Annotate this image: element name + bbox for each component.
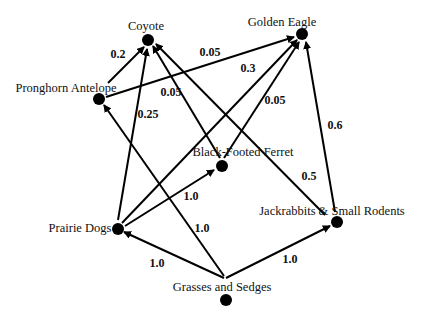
weight-grasses-prairiedogs: 1.0: [150, 256, 165, 271]
label-pronghorn: Pronghorn Antelope: [15, 81, 116, 96]
food-web-diagram: Coyote Golden Eagle Pronghorn Antelope B…: [0, 0, 421, 318]
label-grasses: Grasses and Sedges: [173, 280, 272, 295]
weight-pronghorn-eagle: 0.05: [200, 45, 221, 60]
node-golden-eagle[interactable]: [296, 28, 308, 40]
label-jackrabbits: Jackrabbits & Small Rodents: [259, 204, 404, 219]
weight-grasses-pronghorn: 1.0: [195, 221, 210, 236]
label-golden-eagle: Golden Eagle: [248, 15, 316, 30]
edge-grasses-jackrabbits: [226, 226, 330, 278]
weight-grasses-jackrabbits: 1.0: [283, 252, 298, 267]
label-ferret: Black-Footed Ferret: [192, 145, 293, 160]
weight-ferret-coyote: 0.05: [161, 85, 182, 100]
node-ferret[interactable]: [216, 160, 228, 172]
weight-prairiedogs-ferret: 1.0: [184, 189, 199, 204]
node-prairie-dogs[interactable]: [112, 223, 124, 235]
weight-ferret-eagle: 0.05: [265, 93, 286, 108]
node-coyote[interactable]: [142, 34, 154, 46]
weight-pronghorn-coyote: 0.2: [111, 47, 126, 62]
edge-prairiedogs-eagle: [122, 40, 297, 223]
label-coyote: Coyote: [128, 19, 164, 34]
weight-jackrabbits-coyote: 0.5: [302, 169, 317, 184]
label-prairie-dogs: Prairie Dogs: [49, 221, 112, 236]
node-grasses[interactable]: [220, 294, 232, 306]
weight-prairiedogs-eagle: 0.3: [241, 61, 256, 76]
weight-jackrabbits-eagle: 0.6: [328, 118, 343, 133]
edge-ferret-eagle: [224, 42, 299, 158]
weight-prairiedogs-coyote: 0.25: [138, 107, 159, 122]
edge-prairiedogs-coyote: [118, 49, 147, 220]
